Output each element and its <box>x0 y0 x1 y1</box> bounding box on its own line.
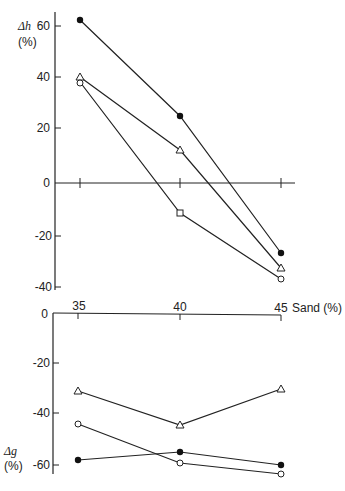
lower-ylabel-symbol: Δg <box>3 444 17 458</box>
triangle-marker <box>277 385 285 392</box>
upper-tick-40: 40 <box>37 70 51 84</box>
filled-circle-marker <box>278 250 284 256</box>
open-circle-marker <box>75 421 81 427</box>
chart-canvas: 60 40 20 0 -20 -40 Δh (%) <box>0 0 345 491</box>
upper-tick-neg20: -20 <box>35 229 53 243</box>
lower-tick-neg60: -60 <box>33 458 51 472</box>
lower-tick-neg40: -40 <box>33 406 51 420</box>
open-square-marker <box>177 210 183 216</box>
filled-circle-marker <box>177 449 183 455</box>
lower-x-axis <box>53 313 281 315</box>
lower-ylabel-unit: (%) <box>4 459 23 473</box>
filled-circle-marker <box>177 113 183 119</box>
x-tick-45: 45 <box>274 301 288 315</box>
upper-markers <box>76 17 285 282</box>
upper-series-triangle-line <box>80 77 281 268</box>
upper-tick-neg40: -40 <box>35 280 53 294</box>
open-circle-marker <box>77 80 83 86</box>
open-circle-marker <box>278 471 284 477</box>
upper-tick-20: 20 <box>37 121 51 135</box>
x-tick-35: 35 <box>72 299 86 313</box>
triangle-marker <box>74 387 82 394</box>
lower-tick-0: 0 <box>41 307 48 321</box>
x-tick-40: 40 <box>173 300 187 314</box>
lower-panel: 0 -20 -40 -60 35 40 45 Sand (%) Δg (%) <box>3 299 342 477</box>
filled-circle-marker <box>77 17 83 23</box>
upper-series-filled-line <box>80 20 281 253</box>
upper-tick-60: 60 <box>37 19 51 33</box>
upper-ylabel-symbol: Δh <box>17 19 31 33</box>
upper-tick-0: 0 <box>43 176 50 190</box>
lower-series-triangle-line <box>78 389 281 425</box>
upper-ylabel-unit: (%) <box>18 35 37 49</box>
filled-circle-marker <box>75 457 81 463</box>
upper-y-ticks <box>55 26 61 287</box>
filled-circle-marker <box>278 462 284 468</box>
open-circle-marker <box>177 460 183 466</box>
triangle-marker <box>76 73 84 80</box>
upper-panel: 60 40 20 0 -20 -40 Δh (%) <box>17 12 295 294</box>
triangle-marker <box>176 146 184 153</box>
open-circle-marker <box>278 276 284 282</box>
x-axis-label: Sand (%) <box>292 301 342 315</box>
lower-tick-neg20: -20 <box>33 356 51 370</box>
